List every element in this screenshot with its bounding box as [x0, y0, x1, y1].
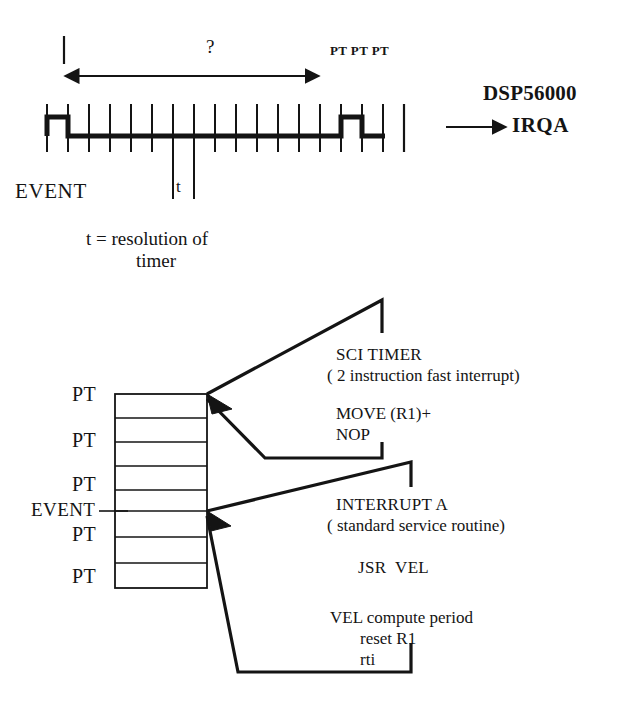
interrupt-a-code-line-2: VEL compute period [330, 608, 473, 627]
sci-timer-arrowhead [207, 394, 232, 414]
buffer-row-dividers [115, 418, 207, 563]
stack-label-pt-4: PT [72, 523, 96, 545]
event-label-top: EVENT [15, 180, 87, 204]
diagram-vector-layer [0, 0, 622, 721]
irqa-signal-label: IRQA [512, 114, 569, 138]
stack-label-pt-5: PT [72, 565, 96, 587]
interrupt-a-arrowhead [207, 511, 231, 531]
sci-timer-subtitle: ( 2 instruction fast interrupt) [327, 366, 520, 385]
stack-label-pt-2: PT [72, 429, 96, 451]
resolution-legend-line2: timer [136, 250, 176, 271]
sci-timer-code-line-2: NOP [336, 425, 370, 444]
stack-label-pt-3: PT [72, 473, 96, 495]
stack-label-pt-1: PT [72, 383, 96, 405]
sci-timer-code-line-1: MOVE (R1)+ [336, 404, 431, 423]
unknown-interval-label: ? [206, 36, 214, 57]
resolution-legend-line1: t = resolution of [86, 228, 208, 249]
sci-timer-title: SCI TIMER [336, 345, 422, 364]
interrupt-a-code-line-3: reset R1 [360, 629, 416, 648]
interrupt-a-code-line-1: JSR VEL [358, 558, 429, 577]
interrupt-a-code-line-4: rti [360, 650, 375, 669]
interrupt-a-title: INTERRUPT A [336, 495, 448, 514]
interrupt-a-subtitle: ( standard service routine) [327, 516, 505, 535]
resolution-tick-label: t [176, 177, 181, 196]
timer-tick-grid [47, 104, 383, 152]
sample-buffer-table [115, 394, 207, 588]
buffer-outline [115, 394, 207, 588]
figure-canvas: ? PT PT PT DSP56000 IRQA EVENT t t = res… [0, 0, 622, 721]
chip-name-label: DSP56000 [483, 82, 577, 106]
interrupt-a-bracket-lower [207, 516, 411, 672]
pt-markers-label: PT PT PT [330, 44, 389, 59]
stack-label-event: EVENT [31, 499, 95, 520]
